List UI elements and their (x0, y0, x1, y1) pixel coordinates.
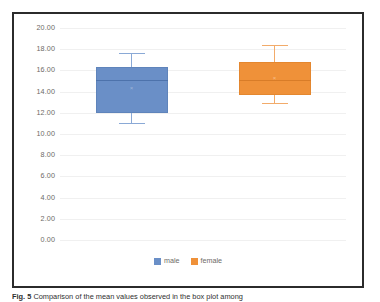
whisker-upper-stem (274, 45, 275, 62)
mean-marker: × (129, 86, 134, 91)
y-tick-label: 8.00 (16, 151, 60, 159)
figure-page: 20.0018.0016.0014.0012.0010.008.006.004.… (0, 0, 380, 302)
caption-label: Fig. 5 (12, 292, 31, 301)
y-tick-label: 10.00 (16, 130, 60, 138)
whisker-lower-stem (274, 95, 275, 103)
box-plot-chart: 20.0018.0016.0014.0012.0010.008.006.004.… (14, 14, 362, 286)
caption-text: Comparison of the mean values observed i… (33, 292, 243, 301)
y-tick-label: 6.00 (16, 172, 60, 180)
whisker-upper-cap (262, 45, 288, 46)
whisker-upper-cap (119, 53, 145, 54)
whisker-lower-stem (131, 113, 132, 124)
y-tick-label: 16.00 (16, 66, 60, 74)
plot-area: ×× (60, 28, 346, 240)
gridline (60, 240, 346, 241)
box-plot-female: × (239, 28, 311, 240)
legend-label: female (201, 257, 223, 265)
y-tick-label: 2.00 (16, 215, 60, 223)
chart-legend: malefemale (14, 257, 362, 265)
legend-swatch-icon (154, 258, 161, 265)
figure-caption: Fig. 5 Comparison of the mean values obs… (12, 292, 368, 301)
y-tick-label: 14.00 (16, 88, 60, 96)
y-tick-label: 18.00 (16, 45, 60, 53)
whisker-lower-cap (262, 103, 288, 104)
box-plot-male: × (96, 28, 168, 240)
legend-swatch-icon (191, 258, 198, 265)
y-tick-label: 4.00 (16, 194, 60, 202)
legend-item-male[interactable]: male (154, 257, 180, 265)
legend-item-female[interactable]: female (191, 257, 223, 265)
y-tick-label: 12.00 (16, 109, 60, 117)
legend-label: male (164, 257, 180, 265)
whisker-upper-stem (131, 53, 132, 67)
mean-marker: × (272, 76, 277, 81)
figure-frame: 20.0018.0016.0014.0012.0010.008.006.004.… (12, 12, 364, 288)
median-line (96, 80, 168, 81)
whisker-lower-cap (119, 123, 145, 124)
y-tick-label: 20.00 (16, 24, 60, 32)
y-tick-label: 0.00 (16, 236, 60, 244)
